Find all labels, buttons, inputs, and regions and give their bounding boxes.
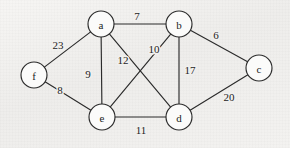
edge-weight-e-f: 8 (57, 84, 63, 96)
graph-edge-a-e (101, 37, 102, 104)
edge-weight-d-e: 11 (136, 124, 147, 136)
graph-node-f[interactable]: f (21, 62, 47, 88)
node-label-d: d (176, 112, 182, 124)
edge-weight-c-d: 20 (224, 91, 236, 103)
edge-weight-a-b: 7 (134, 10, 140, 22)
graph-node-c[interactable]: c (246, 55, 272, 81)
graph-edge-b-c (190, 30, 247, 61)
graph-node-b[interactable]: b (166, 11, 192, 37)
node-label-e: e (100, 112, 105, 124)
edge-weight-a-e: 9 (85, 68, 91, 80)
node-label-a: a (99, 19, 104, 31)
node-label-f: f (32, 70, 36, 82)
graph-node-a[interactable]: a (88, 11, 114, 37)
edge-weight-b-c: 6 (213, 29, 219, 41)
graph-figure: abcdef 77232399121210106617172020111188 (0, 0, 290, 148)
nodes-layer: abcdef (21, 11, 272, 130)
node-label-c: c (257, 63, 262, 75)
graph-edge-c-d (190, 75, 248, 110)
graph-edge-a-f (44, 32, 90, 67)
graph-node-e[interactable]: e (89, 104, 115, 130)
edge-weight-b-e: 10 (149, 43, 161, 55)
edge-weight-a-d: 12 (118, 54, 129, 66)
graph-canvas: abcdef 77232399121210106617172020111188 (0, 0, 290, 148)
graph-edge-e-f (45, 82, 91, 110)
graph-node-d[interactable]: d (166, 104, 192, 130)
edge-weight-b-d: 17 (185, 64, 197, 76)
edge-weight-a-f: 23 (53, 39, 65, 51)
node-label-b: b (176, 19, 182, 31)
